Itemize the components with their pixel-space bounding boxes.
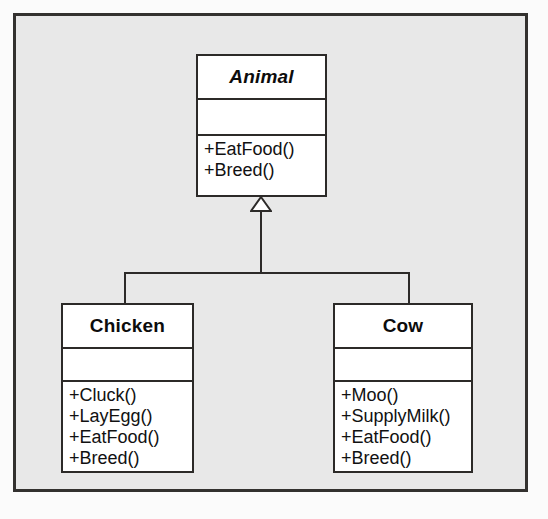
uml-class-cow[interactable]: Cow +Moo() +SupplyMilk() +EatFood() +Bre… [333,303,473,473]
uml-class-animal-attributes [198,98,325,134]
uml-operation: +Breed() [69,448,192,469]
uml-operation: +Breed() [341,448,471,469]
uml-class-chicken-name: Chicken [63,305,192,347]
uml-operation: +SupplyMilk() [341,406,471,427]
generalization-drop-chicken [124,272,126,303]
uml-class-chicken-attributes [63,347,192,380]
uml-class-animal[interactable]: Animal +EatFood() +Breed() [196,54,327,197]
generalization-drop-cow [408,272,410,303]
uml-operation: +EatFood() [341,427,471,448]
uml-operation: +Moo() [341,385,471,406]
generalization-stem-line [260,210,262,274]
uml-operation: +Breed() [204,160,325,181]
uml-class-animal-name: Animal [198,56,325,98]
uml-class-cow-operations: +Moo() +SupplyMilk() +EatFood() +Breed() [335,380,471,471]
uml-operation: +LayEgg() [69,406,192,427]
uml-class-cow-name: Cow [335,305,471,347]
generalization-bar-line [124,272,410,274]
uml-class-animal-operations: +EatFood() +Breed() [198,134,325,195]
uml-operation: +EatFood() [69,427,192,448]
uml-operation: +EatFood() [204,139,325,160]
uml-class-chicken[interactable]: Chicken +Cluck() +LayEgg() +EatFood() +B… [61,303,194,473]
uml-class-cow-attributes [335,347,471,380]
uml-class-chicken-operations: +Cluck() +LayEgg() +EatFood() +Breed() [63,380,192,471]
uml-operation: +Cluck() [69,385,192,406]
uml-diagram-canvas: Animal +EatFood() +Breed() Chicken +Cluc… [13,13,528,492]
